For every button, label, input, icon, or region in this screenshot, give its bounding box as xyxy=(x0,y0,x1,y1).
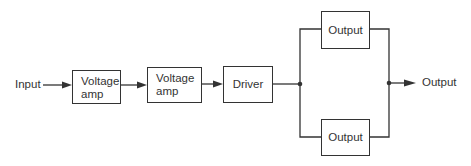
wire-merge-bus xyxy=(369,29,389,137)
block-label-line1: Voltage xyxy=(81,75,120,88)
voltage-amp-block-2: Voltage amp xyxy=(147,67,202,103)
junction-dot-icon xyxy=(298,82,303,87)
arrowhead-icon xyxy=(62,82,72,89)
wire-split-bus xyxy=(300,29,321,137)
input-label: Input xyxy=(15,78,41,91)
output-label: Output xyxy=(422,76,457,89)
block-label-line2: amp xyxy=(156,85,201,98)
voltage-amp-block-1: Voltage amp xyxy=(72,70,121,104)
junction-dot-icon xyxy=(387,81,392,86)
block-label-line2: amp xyxy=(81,88,120,101)
block-label: Driver xyxy=(233,78,264,91)
block-label: Output xyxy=(328,131,363,144)
block-label-line1: Voltage xyxy=(156,72,201,85)
arrowhead-icon xyxy=(213,81,223,88)
arrowhead-icon xyxy=(137,82,147,89)
driver-block: Driver xyxy=(223,66,273,103)
block-label: Output xyxy=(328,24,363,37)
output-block-top: Output xyxy=(321,11,370,49)
output-block-bottom: Output xyxy=(321,119,370,156)
arrowhead-icon xyxy=(404,80,416,87)
